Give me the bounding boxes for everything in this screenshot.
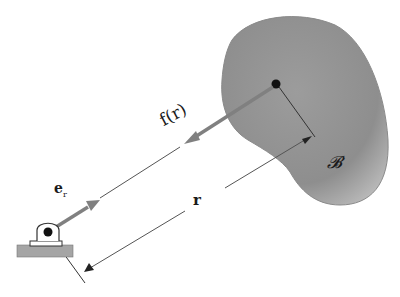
line-of-action-lower xyxy=(100,147,180,198)
distance-arrow-head-lower xyxy=(84,263,94,272)
diagram-canvas: f(r) 𝓑 r er xyxy=(0,0,400,297)
unit-vector-symbol: e xyxy=(54,180,63,196)
support-plate xyxy=(30,241,62,246)
origin-point xyxy=(44,228,53,237)
unit-vector-label: er xyxy=(54,180,67,199)
body-b-shape xyxy=(222,17,388,205)
diagram-svg xyxy=(0,0,400,297)
distance-line-lower xyxy=(90,211,185,268)
force-arrow-head xyxy=(184,131,200,144)
body-label: 𝓑 xyxy=(327,152,342,172)
unit-vector-subscript: r xyxy=(63,190,67,199)
unit-vector-head xyxy=(86,200,100,211)
support-base xyxy=(17,245,73,257)
distance-label: r xyxy=(193,191,201,209)
